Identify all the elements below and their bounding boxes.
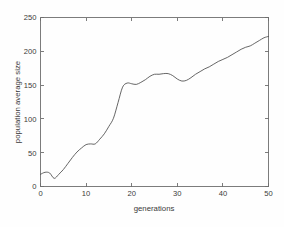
y-tick-label: 50 <box>28 149 36 158</box>
chart-figure: 050100150200250 01020304050 generations … <box>0 0 284 227</box>
y-axis-title: population average size <box>13 61 22 143</box>
x-tick-label: 40 <box>219 189 227 198</box>
x-axis-title: generations <box>134 204 175 213</box>
y-tick-label: 0 <box>32 182 36 191</box>
x-tick-label: 10 <box>82 189 90 198</box>
x-tick-label: 0 <box>38 189 42 198</box>
x-tick-label: 50 <box>264 189 272 198</box>
y-tick-label: 250 <box>24 13 37 22</box>
y-tick-label: 150 <box>24 81 37 90</box>
x-tick-label: 20 <box>127 189 135 198</box>
line-chart: 050100150200250 01020304050 generations … <box>0 0 284 227</box>
y-tick-label: 200 <box>24 47 37 56</box>
x-tick-label: 30 <box>173 189 181 198</box>
y-tick-label: 100 <box>24 115 37 124</box>
